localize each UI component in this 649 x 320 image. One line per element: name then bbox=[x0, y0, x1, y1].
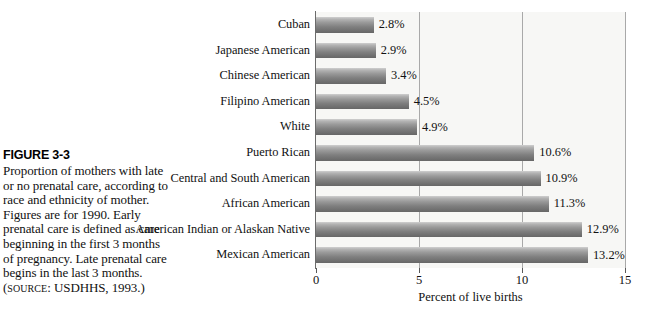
category-label: Filipino American bbox=[100, 94, 310, 109]
bar-value-label: 12.9% bbox=[587, 222, 619, 237]
bar bbox=[316, 43, 376, 59]
category-label: White bbox=[100, 119, 310, 134]
gridline-15 bbox=[625, 12, 626, 268]
bar-value-label: 3.4% bbox=[391, 68, 417, 83]
category-label: Central and South American bbox=[100, 171, 310, 186]
bar bbox=[316, 247, 588, 263]
bar bbox=[316, 94, 409, 110]
bar-value-label: 2.8% bbox=[379, 17, 405, 32]
bar bbox=[316, 171, 541, 187]
bar-chart: 2.8%2.9%3.4%4.5%4.9%10.6%10.9%11.3%12.9%… bbox=[0, 0, 649, 320]
category-label: Chinese American bbox=[100, 68, 310, 83]
category-label: African American bbox=[100, 196, 310, 211]
x-tick-label-10: 10 bbox=[507, 273, 537, 288]
x-tick-label-5: 5 bbox=[404, 273, 434, 288]
bar-value-label: 11.3% bbox=[554, 196, 586, 211]
category-label: Mexican American bbox=[100, 247, 310, 262]
x-axis-title: Percent of live births bbox=[316, 290, 625, 305]
x-tick-label-15: 15 bbox=[610, 273, 640, 288]
bar bbox=[316, 68, 386, 84]
category-label: American Indian or Alaskan Native bbox=[100, 222, 310, 237]
bar bbox=[316, 119, 417, 135]
bar-value-label: 4.9% bbox=[422, 120, 448, 135]
bar bbox=[316, 145, 534, 161]
bar-value-label: 10.9% bbox=[546, 171, 578, 186]
category-label: Cuban bbox=[100, 17, 310, 32]
bar bbox=[316, 17, 374, 33]
bar bbox=[316, 196, 549, 212]
bar-value-label: 10.6% bbox=[539, 145, 571, 160]
category-label: Puerto Rican bbox=[100, 145, 310, 160]
bar-value-label: 2.9% bbox=[381, 43, 407, 58]
x-tick-label-0: 0 bbox=[301, 273, 331, 288]
bar-value-label: 13.2% bbox=[593, 248, 625, 263]
bar-value-label: 4.5% bbox=[414, 94, 440, 109]
bar bbox=[316, 222, 582, 238]
category-label: Japanese American bbox=[100, 43, 310, 58]
